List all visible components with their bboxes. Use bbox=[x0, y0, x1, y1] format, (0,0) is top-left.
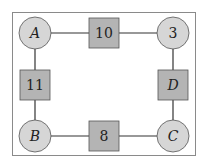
node-B: B bbox=[19, 120, 51, 152]
nodes-layer: A10311DB8C bbox=[19, 17, 189, 152]
node-label: A bbox=[28, 25, 40, 41]
node-A: A bbox=[19, 17, 51, 49]
node-label: 10 bbox=[95, 25, 113, 41]
edges-layer bbox=[35, 33, 173, 136]
node-n8: 8 bbox=[89, 121, 119, 151]
graph-diagram: A10311DB8C bbox=[0, 0, 203, 163]
node-n11: 11 bbox=[20, 70, 50, 100]
node-C: C bbox=[157, 120, 189, 152]
node-label: 3 bbox=[169, 25, 178, 41]
node-label: C bbox=[168, 128, 179, 144]
node-label: D bbox=[166, 77, 178, 93]
node-n3: 3 bbox=[157, 17, 189, 49]
node-label: B bbox=[29, 128, 40, 144]
node-D: D bbox=[158, 70, 188, 100]
node-label: 8 bbox=[100, 128, 109, 144]
node-n10: 10 bbox=[89, 18, 119, 48]
node-label: 11 bbox=[26, 77, 44, 93]
